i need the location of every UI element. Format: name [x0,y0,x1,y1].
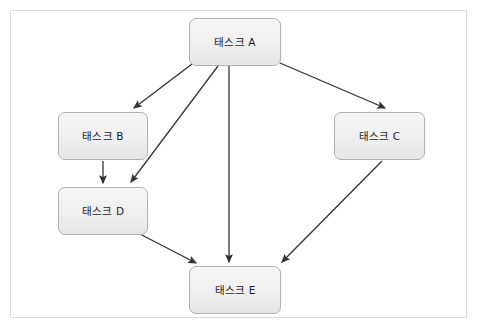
task-dependency-figure: 태스크 A 태스크 B 태스크 C 태스크 D 태스크 E [0,0,483,334]
node-task-a[interactable]: 태스크 A [189,18,281,66]
node-task-d[interactable]: 태스크 D [58,187,148,235]
node-task-b[interactable]: 태스크 B [58,112,148,160]
node-task-e-label: 태스크 E [215,285,256,296]
node-task-d-label: 태스크 D [82,206,124,217]
node-task-c[interactable]: 태스크 C [334,112,425,160]
node-task-a-label: 태스크 A [214,37,256,48]
node-task-e[interactable]: 태스크 E [189,266,281,314]
node-task-c-label: 태스크 C [359,131,401,142]
node-task-b-label: 태스크 B [82,131,124,142]
caption-fragment [12,326,312,334]
